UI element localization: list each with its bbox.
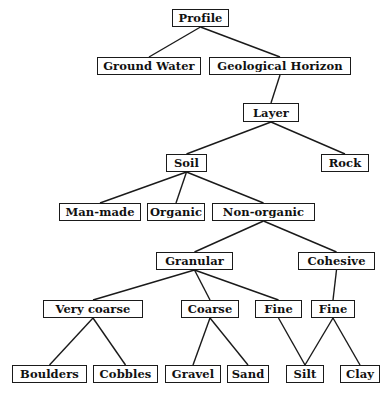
edge-granular-to-very_coarse [93, 270, 195, 300]
edge-soil-to-man_made [100, 172, 187, 203]
edge-very_coarse-to-cobbles [93, 318, 126, 365]
node-very-coarse: Very coarse [43, 300, 143, 318]
edge-layer-to-rock [271, 122, 345, 154]
edge-very_coarse-to-boulders [50, 318, 94, 365]
edge-non_organic-to-cohesive [264, 221, 337, 252]
node-layer: Layer [243, 103, 299, 122]
node-granular: Granular [156, 252, 233, 270]
edge-coarse-to-gravel [193, 318, 210, 365]
node-fine-cohesive: Fine [311, 300, 355, 318]
node-sand: Sand [227, 365, 269, 383]
node-organic: Organic [147, 203, 205, 221]
node-soil: Soil [166, 154, 207, 172]
soil-profile-tree-diagram: Profile Ground Water Geological Horizon … [0, 0, 389, 396]
edge-non_organic-to-granular [195, 221, 264, 252]
node-rock: Rock [321, 154, 369, 172]
node-man-made: Man-made [59, 203, 141, 221]
node-gravel: Gravel [165, 365, 221, 383]
node-coarse: Coarse [181, 300, 239, 318]
edge-fine_granular-to-silt [279, 318, 306, 365]
node-ground-water: Ground Water [97, 57, 201, 75]
edge-profile-to-ground_water [149, 27, 201, 57]
node-clay: Clay [340, 365, 380, 383]
edge-soil-to-non_organic [187, 172, 264, 203]
edge-geological_horizon-to-layer [271, 75, 280, 103]
node-profile: Profile [172, 9, 229, 27]
node-boulders: Boulders [12, 365, 87, 383]
edge-fine_cohesive-to-silt [305, 318, 333, 365]
edge-fine_cohesive-to-clay [333, 318, 360, 365]
edge-profile-to-geological_horizon [201, 27, 281, 57]
node-cobbles: Cobbles [93, 365, 158, 383]
node-geological-horizon: Geological Horizon [209, 57, 351, 75]
edge-cohesive-to-fine_cohesive [333, 270, 337, 300]
edge-coarse-to-sand [210, 318, 248, 365]
node-fine-granular: Fine [255, 300, 302, 318]
node-cohesive: Cohesive [298, 252, 375, 270]
node-non-organic: Non-organic [212, 203, 315, 221]
edge-layer-to-soil [187, 122, 272, 154]
edge-soil-to-organic [176, 172, 187, 203]
node-silt: Silt [286, 365, 324, 383]
